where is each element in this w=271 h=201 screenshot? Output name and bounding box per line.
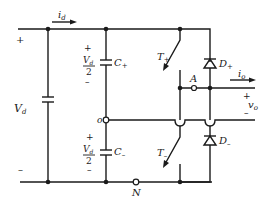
input-current-label: id (58, 9, 66, 22)
output-minus-sign: – (244, 108, 249, 118)
dc-minus-sign: – (18, 164, 23, 175)
node-a-terminal (192, 86, 197, 91)
dc-plus-sign: + (16, 34, 24, 45)
switch-upper-label: T+ (157, 51, 170, 64)
dc-source-vd (42, 29, 54, 182)
node-a-label: A (189, 73, 197, 84)
diode-lower-label: D– (218, 135, 231, 148)
junction-dots (46, 27, 213, 185)
cap-upper-minus: – (85, 77, 90, 87)
dc-source-label: Vd (14, 102, 27, 116)
output-voltage-label: vo (248, 99, 258, 112)
capacitor-lower (100, 123, 112, 182)
cap-lower-label: C– (114, 146, 126, 159)
midpoint-line (109, 120, 255, 126)
half-voltage-upper-num: Vd (83, 55, 94, 66)
cap-lower-plus: + (86, 132, 94, 142)
cap-lower-minus: – (87, 165, 92, 175)
node-o-label: o (97, 115, 103, 125)
node-n-terminal (133, 179, 139, 185)
diode-upper-label: D+ (218, 58, 233, 71)
output-current-label: io (238, 68, 245, 81)
capacitor-upper (100, 29, 112, 117)
node-o-terminal (103, 117, 109, 123)
cap-upper-plus: + (84, 43, 92, 53)
circuit-diagram: id + – Vd + Vd 2 – C+ + Vd 2 – C– o A N … (0, 0, 271, 201)
diode-lower (180, 126, 216, 182)
node-n-label: N (131, 187, 142, 198)
switch-upper (163, 29, 180, 120)
cap-upper-label: C+ (114, 57, 128, 70)
switch-lower-label: T– (157, 147, 168, 160)
half-voltage-lower-num: Vd (83, 144, 94, 155)
half-voltage-upper-den: 2 (86, 67, 92, 77)
